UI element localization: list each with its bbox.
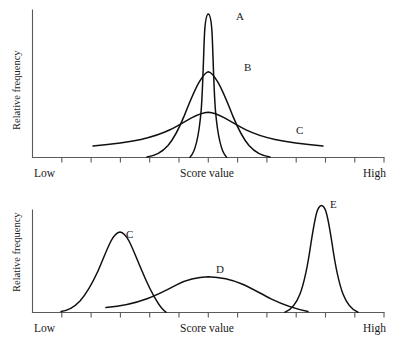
distribution-figure: A B C Relative frequency Low Score value… [0, 0, 416, 343]
top-curve-b [147, 72, 270, 157]
bottom-x-ticks [62, 313, 384, 318]
top-x-axis-label: Score value [180, 167, 234, 179]
bottom-curve-d [106, 277, 308, 312]
top-curve-c [93, 112, 323, 146]
bottom-label-e: E [330, 198, 337, 210]
top-y-axis-label: Relative frequency [11, 50, 22, 130]
top-label-b: B [244, 61, 251, 73]
bottom-x-high-label: High [363, 322, 386, 335]
bottom-curve-e [285, 205, 358, 312]
top-curve-a [190, 14, 227, 157]
figure-canvas: A B C Relative frequency Low Score value… [0, 0, 416, 343]
bottom-curve-c [61, 232, 166, 312]
top-label-c: C [296, 124, 303, 136]
bottom-label-d: D [216, 263, 224, 275]
top-x-high-label: High [363, 167, 386, 180]
top-label-a: A [236, 10, 244, 22]
top-x-ticks [62, 158, 384, 163]
bottom-y-axis-label: Relative frequency [11, 212, 22, 292]
top-x-low-label: Low [34, 167, 56, 179]
bottom-x-low-label: Low [34, 322, 56, 334]
bottom-label-c: C [126, 228, 133, 240]
top-panel: A B C Relative frequency Low Score value… [11, 10, 386, 180]
bottom-x-axis-label: Score value [180, 322, 234, 334]
bottom-panel: C D E Relative frequency Low Score value… [11, 198, 386, 335]
